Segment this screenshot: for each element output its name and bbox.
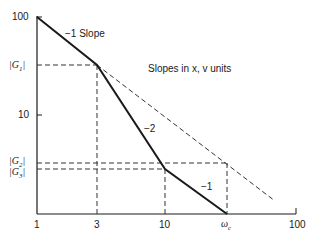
minus1-extension — [97, 65, 275, 201]
slope-label-minus2: −2 — [144, 124, 155, 134]
y-label-g1: |G1| — [9, 60, 25, 74]
y-label-100: 100 — [12, 12, 29, 22]
bode-diagram — [0, 0, 313, 243]
x-label-10: 10 — [159, 220, 170, 230]
y-label-g3: |G3| — [9, 167, 25, 181]
slope-label-minus1-b: −1 — [201, 182, 212, 192]
x-label-wc: ωc — [221, 219, 231, 233]
x-label-1: 1 — [34, 220, 40, 230]
x-label-100: 100 — [289, 220, 306, 230]
slope-label-minus1: −1 Slope — [65, 29, 105, 39]
y-label-10: 10 — [18, 110, 29, 120]
asymptote-curve — [37, 17, 227, 214]
x-label-3: 3 — [94, 220, 100, 230]
slope-units-note: Slopes in x, v units — [148, 64, 231, 74]
